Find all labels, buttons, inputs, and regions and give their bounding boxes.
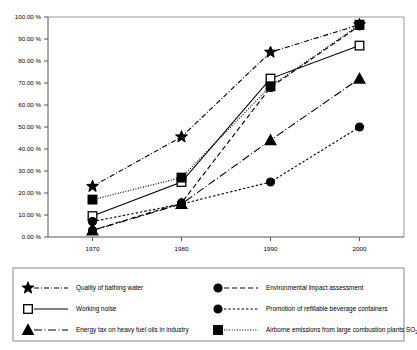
- chart-container: 0.00 %10.00 %20.00 %30.00 %40.00 %50.00 …: [0, 0, 417, 350]
- data-point-marker: [177, 173, 186, 182]
- legend-marker: [214, 326, 223, 335]
- line-chart: 0.00 %10.00 %20.00 %30.00 %40.00 %50.00 …: [0, 0, 417, 350]
- data-point-marker: [89, 226, 97, 234]
- legend-marker: [24, 305, 33, 314]
- x-tick-label: 1970: [86, 245, 100, 252]
- y-tick-label: 40.00 %: [18, 145, 41, 152]
- data-point-marker: [355, 41, 364, 50]
- legend-label: Promotion of refillable beverage contain…: [266, 305, 388, 313]
- x-tick-label: 1980: [175, 245, 189, 252]
- legend-marker: [214, 284, 222, 292]
- x-tick-label: 1990: [264, 245, 278, 252]
- data-point-marker: [88, 195, 97, 204]
- legend-label: Quality of bathing water: [76, 284, 144, 292]
- data-point-marker: [356, 123, 364, 131]
- data-point-marker: [178, 200, 186, 208]
- data-point-marker: [355, 20, 364, 29]
- data-point-marker: [89, 218, 97, 226]
- y-tick-label: 0.00 %: [22, 233, 42, 240]
- legend-label: Working noise: [76, 305, 117, 313]
- y-tick-label: 70.00 %: [18, 79, 41, 86]
- legend-label: Environmental impact assessment: [266, 284, 364, 292]
- legend-marker: [214, 305, 222, 313]
- data-point-marker: [267, 178, 275, 186]
- y-tick-label: 10.00 %: [18, 211, 41, 218]
- legend-label: Energy tax on heavy fuel oils in industr…: [76, 326, 189, 334]
- x-tick-label: 2000: [353, 245, 367, 252]
- y-tick-label: 60.00 %: [18, 101, 41, 108]
- y-tick-label: 50.00 %: [18, 123, 41, 130]
- y-tick-label: 90.00 %: [18, 35, 41, 42]
- y-tick-label: 30.00 %: [18, 167, 41, 174]
- y-tick-label: 100.00 %: [15, 13, 42, 20]
- chart-background: [0, 0, 417, 350]
- y-tick-label: 80.00 %: [18, 57, 41, 64]
- data-point-marker: [266, 82, 275, 91]
- y-tick-label: 20.00 %: [18, 189, 41, 196]
- legend-entries: Quality of bathing waterWorking noiseEne…: [22, 282, 417, 335]
